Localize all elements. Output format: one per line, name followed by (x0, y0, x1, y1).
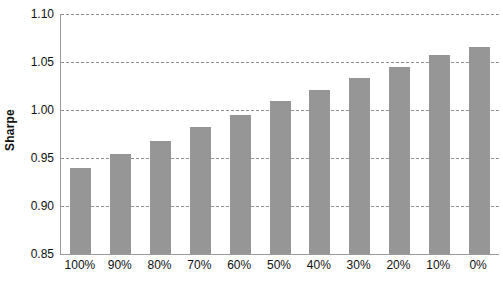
y-axis-tick-labels: 0.850.900.951.001.051.10 (20, 0, 58, 260)
bar (230, 115, 251, 254)
x-axis-tick-label: 0% (469, 258, 486, 272)
bars-layer (61, 14, 499, 254)
bar (469, 47, 490, 254)
x-axis-tick-label: 20% (386, 258, 410, 272)
y-axis-title-label: Sharpe (3, 109, 17, 151)
y-axis-tick-label: 0.95 (31, 151, 54, 165)
x-axis-tick-label: 50% (267, 258, 291, 272)
bar (70, 168, 91, 254)
x-axis-tick-label: 10% (426, 258, 450, 272)
y-axis-title: Sharpe (0, 0, 20, 260)
x-axis-tick-label: 70% (187, 258, 211, 272)
bar (110, 154, 131, 254)
x-axis-tick-label: 60% (227, 258, 251, 272)
y-axis-tick-label: 1.10 (31, 7, 54, 21)
bar (429, 55, 450, 254)
x-axis-tick-label: 30% (347, 258, 371, 272)
x-axis-tick-labels: 100%90%80%70%60%50%40%30%20%10%0% (60, 258, 498, 280)
bar (190, 127, 211, 254)
x-axis-tick-label: 100% (65, 258, 96, 272)
y-axis-tick-label: 1.00 (31, 103, 54, 117)
y-axis-tick-label: 0.85 (31, 247, 54, 261)
x-axis-tick-label: 80% (148, 258, 172, 272)
x-axis-tick-label: 90% (108, 258, 132, 272)
bar (349, 78, 370, 254)
x-axis-tick-label: 40% (307, 258, 331, 272)
bar-chart: Sharpe 0.850.900.951.001.051.10 100%90%8… (0, 0, 503, 285)
bar (150, 141, 171, 254)
y-axis-tick-label: 1.05 (31, 55, 54, 69)
y-axis-tick-label: 0.90 (31, 199, 54, 213)
bar (389, 67, 410, 254)
bar (270, 101, 291, 254)
plot-area (60, 14, 499, 255)
bar (309, 90, 330, 254)
